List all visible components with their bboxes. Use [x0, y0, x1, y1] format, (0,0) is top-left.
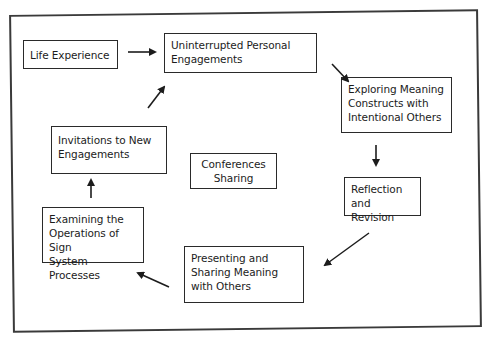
diagram-canvas: Life Experience Uninterrupted Personal E…: [0, 0, 489, 337]
arrow-invitations-to-uninterrupted: [148, 87, 164, 108]
arrow-reflection-to-presenting: [325, 233, 369, 265]
arrows-layer: [0, 0, 489, 337]
arrow-uninterrupted-to-exploring: [332, 64, 348, 81]
arrow-presenting-to-examining: [138, 273, 169, 287]
cropped-caption: [120, 333, 380, 337]
